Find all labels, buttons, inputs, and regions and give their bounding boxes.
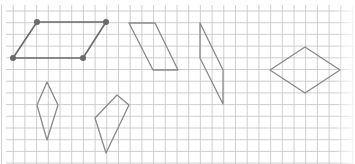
grid-diagram	[0, 0, 355, 164]
vertex-dot	[10, 55, 16, 61]
vertex-dot	[80, 55, 86, 61]
vertex-dot	[103, 19, 109, 25]
vertex-dot	[34, 19, 40, 25]
right-edge-fade	[0, 0, 355, 164]
